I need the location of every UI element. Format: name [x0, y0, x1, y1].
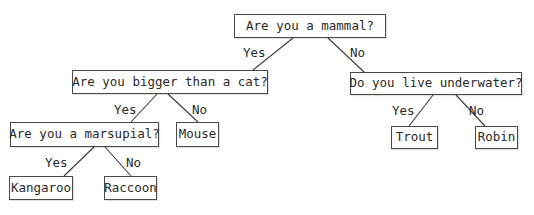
edge-label-bigger-yes: Yes	[114, 104, 137, 117]
node-leaf-kangaroo: Kangaroo	[9, 176, 73, 200]
edge-marsupial-yes	[64, 147, 94, 176]
node-leaf-trout: Trout	[391, 126, 438, 149]
edge-label-underwater-yes: Yes	[392, 105, 415, 118]
node-leaf-raccoon: Raccoon	[104, 176, 157, 200]
edge-label-marsupial-yes: Yes	[45, 157, 68, 170]
node-root-question: Are you a mammal?	[234, 14, 386, 38]
node-underwater-question: Do you live underwater?	[350, 72, 522, 95]
node-marsupial-question: Are you a marsupial?	[10, 122, 159, 147]
edge-label-bigger-no: No	[192, 104, 207, 117]
node-leaf-robin: Robin	[475, 126, 518, 149]
edge-label-underwater-no: No	[469, 105, 484, 118]
node-bigger-question: Are you bigger than a cat?	[72, 70, 268, 94]
edge-label-root-yes: Yes	[243, 47, 266, 60]
edge-label-root-no: No	[350, 47, 365, 60]
edge-label-marsupial-no: No	[126, 157, 141, 170]
node-leaf-mouse: Mouse	[176, 122, 219, 147]
